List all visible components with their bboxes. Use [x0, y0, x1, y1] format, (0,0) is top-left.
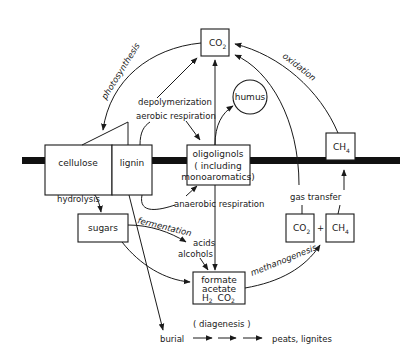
fermentation-label: fermentation: [137, 215, 193, 238]
depolymerization-label: depolymerization: [138, 97, 212, 107]
svg-text:humus: humus: [235, 92, 266, 102]
sugars-to-formate-arrow: [122, 242, 190, 282]
gas-transfer-label: gas transfer: [290, 192, 342, 202]
aerobic-respiration-arrow: [186, 121, 200, 140]
anaerobic-respiration-arrow: [186, 186, 197, 196]
humus-node: humus: [233, 80, 267, 114]
burial-label: burial: [160, 334, 184, 344]
svg-text:monoaromatics): monoaromatics): [181, 172, 254, 182]
photosynthesis-label: photosynthesis: [99, 41, 143, 102]
acids-to-formate-arrow: [200, 258, 208, 270]
plus-sign: +: [317, 223, 324, 233]
ch4-gas-line: [338, 205, 340, 214]
svg-text:lignin: lignin: [120, 158, 145, 168]
peats-lignites-label: peats, lignites: [272, 334, 332, 344]
acids-label: acids: [193, 238, 216, 248]
oxidation-label: oxidation: [281, 51, 318, 83]
co2-bottom-box: CO2: [286, 214, 314, 242]
cellulose-box: cellulose: [45, 145, 112, 195]
sugars-box: sugars: [78, 214, 128, 242]
co2-top-box: CO2: [201, 29, 229, 56]
svg-text:oligolignols: oligolignols: [193, 149, 244, 159]
aerobic-respiration-label: aerobic respiration: [136, 111, 216, 121]
svg-text:( including: ( including: [194, 161, 241, 171]
aerobic-curve: [140, 122, 150, 145]
lignin-box: lignin: [112, 145, 152, 195]
formate-box: formate acetate H2CO2: [193, 272, 245, 304]
svg-text:sugars: sugars: [88, 223, 118, 233]
anaerobic-curve: [142, 195, 175, 209]
svg-text:cellulose: cellulose: [58, 158, 98, 168]
alcohols-label: alcohols: [178, 249, 213, 259]
diagenesis-label: ( diagenesis ): [193, 319, 250, 329]
oligolignols-to-humus-arrow: [215, 106, 233, 145]
ch4-bottom-box: CH4: [326, 214, 354, 242]
svg-text:H2CO2: H2CO2: [202, 293, 235, 304]
hydrolysis-label: hydrolysis: [57, 194, 101, 204]
depolymerization-arrow: [157, 58, 197, 98]
anaerobic-respiration-label: anaerobic respiration: [174, 199, 264, 209]
carbon-cycle-diagram: CO2 humus cellulose lignin oligolignols …: [0, 0, 418, 361]
oligolignols-box: oligolignols ( including monoaromatics): [181, 145, 254, 185]
lignin-to-burial-arrow: [129, 195, 163, 330]
cellulose-to-lignin-line: [82, 122, 128, 145]
ch4-top-box: CH4: [326, 133, 355, 160]
